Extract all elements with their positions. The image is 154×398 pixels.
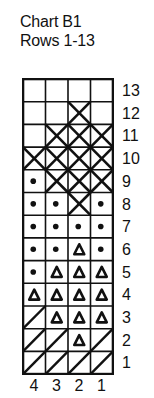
grid-cell <box>91 329 114 352</box>
dot-icon <box>30 201 36 207</box>
grid-cell <box>23 306 46 329</box>
grid-cell <box>30 201 36 207</box>
grid-cell <box>91 170 114 193</box>
row-label: 3 <box>122 309 131 327</box>
grid-cell <box>91 124 114 147</box>
grid-cell <box>52 267 62 277</box>
grid-cell <box>46 147 69 170</box>
grid-cell <box>97 290 107 300</box>
grid-cell <box>53 246 59 252</box>
cross-icon <box>91 124 114 147</box>
cross-icon <box>91 170 114 193</box>
grid-cell <box>68 170 91 193</box>
grid-cell <box>30 178 36 184</box>
column-label: 4 <box>23 377 45 395</box>
cross-icon <box>46 170 69 193</box>
grid-cell <box>68 351 91 374</box>
triangle-icon <box>52 267 62 277</box>
grid-cell <box>46 329 69 352</box>
slash-icon <box>68 351 91 374</box>
cross-icon <box>68 124 91 147</box>
row-label: 10 <box>122 150 140 168</box>
cross-icon <box>68 147 91 170</box>
grid-cell <box>53 224 59 230</box>
cross-icon <box>68 102 91 125</box>
triangle-icon <box>74 290 84 300</box>
grid-cell <box>68 193 91 216</box>
dot-icon <box>75 224 81 230</box>
row-label: 8 <box>122 196 131 214</box>
row-label: 11 <box>122 127 139 145</box>
grid-cell <box>98 201 104 207</box>
chart-title: Chart B1 <box>20 12 82 31</box>
triangle-icon <box>52 290 62 300</box>
slash-icon <box>91 329 114 352</box>
slash-icon <box>46 329 69 352</box>
grid-cell <box>91 147 114 170</box>
grid-cell <box>98 224 104 230</box>
dot-icon <box>30 269 36 275</box>
column-label: 1 <box>91 377 113 395</box>
row-label: 1 <box>122 354 131 372</box>
grid-cell <box>30 224 36 230</box>
cross-icon <box>46 147 69 170</box>
row-label: 5 <box>122 264 131 282</box>
grid-cell <box>98 246 104 252</box>
grid-cell <box>75 224 81 230</box>
knitting-chart-grid <box>22 78 114 375</box>
triangle-icon <box>29 290 39 300</box>
triangle-icon <box>97 267 107 277</box>
grid-cell <box>74 290 84 300</box>
slash-icon <box>23 351 46 374</box>
triangle-icon <box>97 290 107 300</box>
grid-cell <box>91 351 114 374</box>
cross-icon <box>91 147 114 170</box>
dot-icon <box>53 246 59 252</box>
slash-icon <box>23 329 46 352</box>
cross-icon <box>23 147 46 170</box>
triangle-icon <box>74 335 84 345</box>
grid-cell <box>30 269 36 275</box>
cross-icon <box>68 170 91 193</box>
dot-icon <box>30 224 36 230</box>
row-label: 4 <box>122 286 131 304</box>
grid-cell <box>74 244 84 254</box>
row-label: 9 <box>122 173 131 191</box>
grid-cell <box>23 147 46 170</box>
triangle-icon <box>74 312 84 322</box>
triangle-icon <box>52 312 62 322</box>
grid-cell <box>23 329 46 352</box>
grid-cell <box>74 335 84 345</box>
slash-icon <box>91 351 114 374</box>
grid-cell <box>74 267 84 277</box>
dot-icon <box>53 224 59 230</box>
grid-cell <box>46 351 69 374</box>
dot-icon <box>30 246 36 252</box>
grid-cell <box>52 312 62 322</box>
grid-cell <box>46 170 69 193</box>
grid-cell <box>29 290 39 300</box>
grid-cell <box>53 201 59 207</box>
dot-icon <box>53 201 59 207</box>
slash-icon <box>23 306 46 329</box>
cross-icon <box>68 193 91 216</box>
row-label: 12 <box>122 105 140 123</box>
triangle-icon <box>97 312 107 322</box>
grid-cell <box>97 267 107 277</box>
row-label: 13 <box>122 82 140 100</box>
grid-cell <box>68 147 91 170</box>
row-label: 2 <box>122 332 131 350</box>
grid-cell <box>97 312 107 322</box>
grid-cell <box>52 290 62 300</box>
grid-cell <box>68 124 91 147</box>
column-label: 2 <box>68 377 90 395</box>
cross-icon <box>46 124 69 147</box>
dot-icon <box>30 178 36 184</box>
grid-cell <box>23 351 46 374</box>
triangle-icon <box>74 244 84 254</box>
dot-icon <box>98 246 104 252</box>
grid-cell <box>30 246 36 252</box>
triangle-icon <box>74 267 84 277</box>
row-label: 7 <box>122 218 131 236</box>
grid-cell <box>46 124 69 147</box>
